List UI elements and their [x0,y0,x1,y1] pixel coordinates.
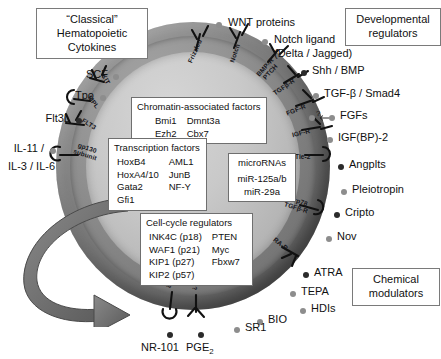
microrna-item: miR-29a [234,186,290,199]
table-row: WAF1 (p21) Myc [146,244,247,257]
chromatin-cell: Bmi1 [137,115,184,128]
ligand-dot-tpo [100,95,106,101]
ligand-dot-tgfb [313,93,319,99]
ligand-label-pge2-sub: 2 [209,347,213,356]
ligand-dot-scf [113,74,119,80]
cellcycle-cell: PTEN [209,231,247,244]
ligand-label-pge2-text: PGE [186,341,209,353]
transcription-cell: JunB [166,169,201,182]
ligand-label-scf: SCF [56,68,108,81]
legend-classical-line2: Hematopoietic [43,27,141,41]
ligand-label-bio: BIO [268,313,287,326]
legend-chemical-modulators: Chemical modulators [352,268,440,306]
transcription-cell: HoxA4/10 [114,169,166,182]
ligand-dot-notch [262,39,268,45]
table-row: Gfi1 [114,194,201,207]
ligand-dot-angplts [338,164,344,170]
transcription-cell: NF-Y [166,181,201,194]
transcription-cell: AML1 [166,156,201,169]
ligand-label-atra: ATRA [314,266,343,279]
cellcycle-cell: KIP1 (p27) [146,256,209,269]
ligand-dot-cripto [334,212,340,218]
ligand-dot-shh-bmp [301,70,307,76]
transcription-cell [166,194,201,207]
box-microrna-header: microRNAs [234,157,290,170]
ligand-dot-il11 [50,148,56,154]
chromatin-cell: Dmnt3a [184,115,227,128]
ligand-label-wnt: WNT proteins [228,16,295,29]
box-cell-cycle-regulators: Cell-cycle regulators INK4C (p18) PTEN W… [140,213,253,286]
ligand-label-tgfb-smad4: TGF-β / Smad4 [324,87,400,100]
receptor-label-unknown-2: ? [190,286,197,291]
table-row: Bmi1 Dmnt3a [137,115,227,128]
ligand-label-cripto: Cripto [345,206,374,219]
ligand-dot-sr1 [234,327,240,333]
transcription-cell: HoxB4 [114,156,166,169]
box-chromatin-header: Chromatin-associated factors [137,101,261,114]
ligand-label-igfbp2: IGF(BP)-2 [338,131,388,144]
table-row: HoxA4/10 JunB [114,169,201,182]
ligand-label-pleiotropin: Pleiotropin [352,183,404,196]
table-row: INK4C (p18) PTEN [146,231,247,244]
cellcycle-cell: INK4C (p18) [146,231,209,244]
ligand-label-nr101: NR-101 [141,341,179,354]
fgf-arrow-icon [319,115,331,123]
legend-classical-cytokines: “Classical” Hematopoietic Cytokines [36,8,148,59]
table-row: KIP2 (p57) [146,269,247,282]
legend-chemical-line1: Chemical [359,273,433,287]
legend-developmental-line1: Developmental [352,13,434,27]
cellcycle-cell: Myc [209,244,247,257]
ligand-label-sr1: SR1 [245,321,266,334]
cellcycle-cell: WAF1 (p21) [146,244,209,257]
ligand-label-il11: IL-11 / [0,142,44,155]
legend-classical-line1: “Classical” [43,13,141,27]
ligand-dot-pleiotropin [341,189,347,195]
ligand-label-il3-il6: IL-3 / IL-6 [8,160,55,173]
table-row: KIP1 (p27) Fbxw7 [146,256,247,269]
ligand-label-hdis: HDIs [311,302,335,315]
ligand-dot-nr101 [167,332,173,338]
box-transcription-header: Transcription factors [114,142,201,155]
ligand-dot-flt3l [76,118,82,124]
ligand-dot-fgf-unknown [309,115,315,121]
legend-classical-line3: Cytokines [43,41,141,55]
transcription-cell: Gata2 [114,181,166,194]
ligand-dot-hdis [300,308,306,314]
ligand-label-tpo: Tpo [44,89,94,102]
transcription-cell: Gfi1 [114,194,166,207]
box-cellcycle-header: Cell-cycle regulators [146,217,247,230]
ligand-label-pge2: PGE2 [186,341,214,357]
cellcycle-cell [209,269,247,282]
ligand-label-nov: Nov [337,230,357,243]
legend-developmental-regulators: Developmental regulators [345,8,441,46]
ligand-label-fgfs: FGFs [340,109,368,122]
receptor-label-tie2: Tie-2 [295,154,311,161]
legend-chemical-line2: modulators [359,287,433,301]
ligand-label-notch-delta-jagged: (Delta / Jagged) [274,47,352,60]
ligand-dot-wnt [216,22,222,28]
legend-developmental-line2: regulators [352,27,434,41]
table-row: HoxB4 AML1 [114,156,201,169]
ligand-dot-pge2 [198,332,204,338]
box-micrornas: microRNAs miR-125a/b miR-29a [228,153,296,202]
cellcycle-cell: KIP2 (p57) [146,269,209,282]
ligand-dot-atra [303,272,309,278]
ligand-label-notch-ligand: Notch ligand [274,33,335,46]
table-row: Gata2 NF-Y [114,181,201,194]
box-transcription-factors: Transcription factors HoxB4 AML1 HoxA4/1… [108,138,207,211]
cellcycle-cell: Fbxw7 [209,256,247,269]
ligand-label-angplts: Angplts [349,158,386,171]
ligand-label-tepa: TEPA [301,285,329,298]
ligand-dot-tepa [290,291,296,297]
ligand-label-shh-bmp: Shh / BMP [312,64,365,77]
ligand-label-flt3l: Flt3L [16,112,70,125]
microrna-item: miR-125a/b [234,173,290,186]
ligand-dot-igfbp2 [327,137,333,143]
ligand-dot-nov [326,236,332,242]
